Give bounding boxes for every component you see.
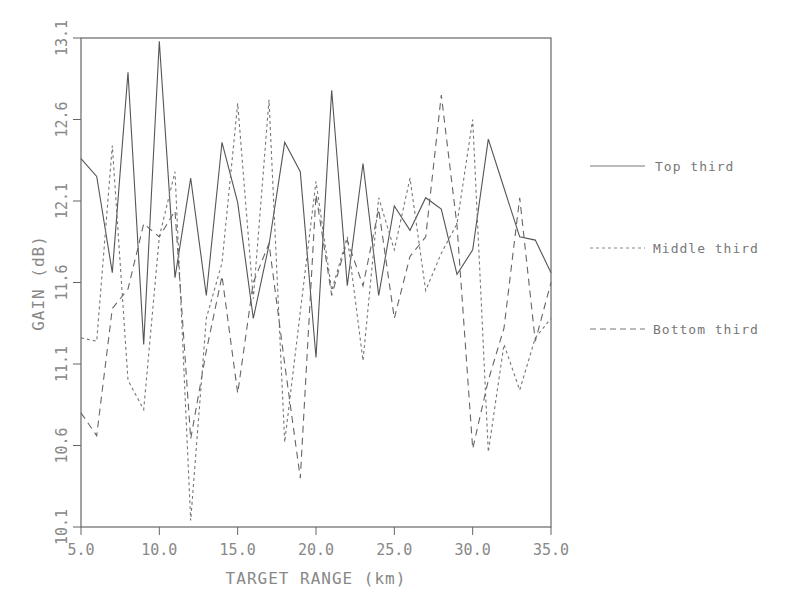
x-axis: 5.010.015.020.025.030.035.0 <box>67 527 569 559</box>
series-line-middle-third <box>81 100 551 521</box>
y-axis-title: GAIN (dB) <box>29 235 48 331</box>
y-tick-label: 12.6 <box>53 101 71 137</box>
legend-label-middle: Middle third <box>653 241 759 256</box>
y-tick-label: 10.1 <box>53 509 71 545</box>
y-tick-label: 13.1 <box>53 20 71 56</box>
legend-item-bottom: Bottom third <box>590 322 759 337</box>
legend-label-bottom: Bottom third <box>653 322 759 337</box>
y-tick-label: 12.1 <box>53 183 71 219</box>
legend-item-middle: Middle third <box>590 241 759 256</box>
y-tick-label: 11.6 <box>53 264 71 300</box>
x-tick-label: 15.0 <box>220 541 256 559</box>
x-tick-label: 20.0 <box>298 541 334 559</box>
x-axis-title: TARGET RANGE (km) <box>226 569 407 588</box>
x-tick-label: 10.0 <box>141 541 177 559</box>
x-tick-label: 25.0 <box>376 541 412 559</box>
legend-label-top: Top third <box>655 159 734 174</box>
series-layer <box>81 41 551 520</box>
gain-vs-range-chart: 5.010.015.020.025.030.035.0 10.110.611.1… <box>0 0 786 610</box>
legend: Top third Middle third Bottom third <box>590 159 759 337</box>
x-tick-label: 5.0 <box>67 541 94 559</box>
y-tick-label: 10.6 <box>53 427 71 463</box>
y-axis: 10.110.611.111.612.112.613.1 <box>53 20 81 545</box>
x-tick-label: 30.0 <box>455 541 491 559</box>
legend-item-top: Top third <box>590 159 734 174</box>
y-tick-label: 11.1 <box>53 346 71 382</box>
x-tick-label: 35.0 <box>533 541 569 559</box>
